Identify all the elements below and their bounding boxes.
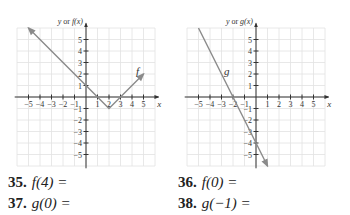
y-tick-label: 3 (248, 59, 252, 68)
x-tick-label: 1 (96, 100, 100, 109)
x-tick-label: −2 (59, 100, 68, 109)
x-tick-label: 4 (300, 100, 304, 109)
graph-f: −5−4−3−2−1123451−12−23−34−45−5y or f(x)x… (15, 17, 162, 168)
x-tick-label: 3 (119, 100, 123, 109)
x-tick-label: −5 (194, 100, 203, 109)
graph-g: −5−4−3−2−1123451−12−23−34−45−5y or g(x)x… (185, 17, 332, 168)
y-tick-label: 4 (78, 47, 82, 56)
exercise-38: 38.g(−1) = (178, 195, 251, 212)
exercise-37: 37.g(0) = (8, 195, 71, 212)
x-tick-label: 2 (277, 100, 281, 109)
y-tick-label: −1 (243, 105, 252, 114)
x-tick-label: 3 (289, 100, 293, 109)
x-tick-label: −3 (47, 100, 56, 109)
x-tick-label: 5 (142, 100, 146, 109)
exercise-number: 35. (8, 174, 27, 190)
exercise-expression: g(−1) = (202, 195, 251, 211)
exercise-35: 35.f(4) = (8, 174, 67, 191)
y-tick-label: 5 (78, 36, 82, 45)
y-tick-label: −4 (243, 139, 252, 148)
x-axis-label: x (326, 99, 331, 109)
curve-label: f (136, 65, 141, 77)
x-tick-label: 5 (312, 100, 316, 109)
x-axis-label: x (156, 99, 161, 109)
x-tick-label: −4 (36, 100, 45, 109)
x-tick-label: −3 (217, 100, 226, 109)
y-tick-label: 5 (248, 36, 252, 45)
exercise-36: 36.f(0) = (178, 174, 237, 191)
exercise-expression: g(0) = (32, 195, 71, 211)
x-tick-label: 4 (130, 100, 134, 109)
y-tick-label: −2 (73, 116, 82, 125)
x-tick-label: −4 (206, 100, 215, 109)
y-tick-label: 4 (248, 47, 252, 56)
y-tick-label: −1 (73, 105, 82, 114)
exercise-number: 38. (178, 195, 197, 211)
y-tick-label: −4 (73, 139, 82, 148)
exercise-expression: f(0) = (202, 174, 238, 190)
exercise-number: 37. (8, 195, 27, 211)
x-tick-label: −5 (24, 100, 33, 109)
y-tick-label: −3 (73, 128, 82, 137)
y-axis-label: y or g(x) (225, 17, 253, 26)
exercise-number: 36. (178, 174, 197, 190)
y-tick-label: 2 (248, 70, 252, 79)
y-tick-label: 3 (78, 59, 82, 68)
exercise-expression: f(4) = (32, 174, 68, 190)
x-tick-label: 1 (266, 100, 270, 109)
y-axis-label: y or f(x) (57, 17, 84, 26)
y-tick-label: −5 (243, 151, 252, 160)
y-tick-label: 1 (248, 82, 252, 91)
y-tick-label: −5 (73, 151, 82, 160)
curve-label: g (224, 65, 230, 77)
y-tick-label: 1 (78, 82, 82, 91)
